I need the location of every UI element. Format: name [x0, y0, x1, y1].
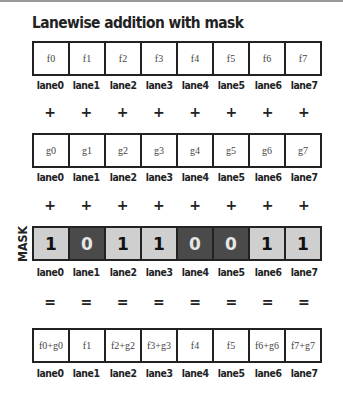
mask-cell-1: 0: [70, 228, 106, 259]
result-cell-4: f4: [178, 330, 214, 361]
mask-cell-4: 0: [178, 228, 214, 259]
lane-label: lane4: [180, 79, 211, 92]
equals-sign: =: [250, 294, 286, 310]
lane-labels-result: lane0 lane1 lane2 lane3 lane4 lane5 lane…: [32, 367, 322, 380]
result-cell-0: f0+g0: [34, 330, 70, 361]
cell-g4: g4: [178, 135, 214, 166]
cell-g5: g5: [214, 135, 250, 166]
lane-labels-mask: lane0 lane1 lane2 lane3 lane4 lane5 lane…: [32, 266, 322, 279]
result-cell-7: f7+g7: [286, 330, 320, 361]
mask-label-text: MASK: [15, 226, 30, 262]
plus-sign: +: [286, 104, 322, 120]
diagram-title: Lanewise addition with mask: [32, 14, 243, 32]
cell-g7: g7: [286, 135, 320, 166]
plus-operators-1: + + + + + + + +: [32, 104, 322, 120]
equals-sign: =: [213, 294, 249, 310]
cell-f3: f3: [142, 43, 178, 74]
plus-sign: +: [32, 197, 68, 213]
result-cell-2: f2+g2: [106, 330, 142, 361]
lane-label: lane7: [288, 367, 319, 380]
cell-g0: g0: [34, 135, 70, 166]
lane-label: lane2: [107, 266, 138, 279]
plus-sign: +: [213, 104, 249, 120]
lane-label: lane4: [180, 367, 211, 380]
lane-label: lane3: [143, 79, 174, 92]
lane-label: lane2: [107, 367, 138, 380]
lane-label: lane3: [143, 171, 174, 184]
lane-label: lane5: [216, 171, 247, 184]
lane-label: lane2: [107, 171, 138, 184]
cell-f0: f0: [34, 43, 70, 74]
cell-f2: f2: [106, 43, 142, 74]
vector-f: f0 f1 f2 f3 f4 f5 f6 f7: [32, 41, 322, 76]
mask-cell-3: 1: [142, 228, 178, 259]
lane-label: lane0: [35, 171, 66, 184]
plus-sign: +: [68, 197, 104, 213]
lane-label: lane0: [35, 79, 66, 92]
lane-label: lane6: [252, 266, 283, 279]
equals-sign: =: [177, 294, 213, 310]
equals-sign: =: [286, 294, 322, 310]
result-cell-5: f5: [214, 330, 250, 361]
lane-label: lane6: [252, 79, 283, 92]
result-cell-3: f3+g3: [142, 330, 178, 361]
plus-sign: +: [250, 104, 286, 120]
cell-f7: f7: [286, 43, 320, 74]
lane-label: lane0: [35, 367, 66, 380]
cell-g3: g3: [142, 135, 178, 166]
plus-sign: +: [213, 197, 249, 213]
lane-label: lane1: [71, 266, 102, 279]
mask-label: MASK: [12, 233, 32, 255]
cell-g6: g6: [250, 135, 286, 166]
cell-g1: g1: [70, 135, 106, 166]
cell-f5: f5: [214, 43, 250, 74]
plus-operators-2: + + + + + + + +: [32, 197, 322, 213]
mask-vector: 1 0 1 1 0 0 1 1: [32, 226, 322, 261]
plus-sign: +: [32, 104, 68, 120]
mask-cell-7: 1: [286, 228, 320, 259]
plus-sign: +: [141, 197, 177, 213]
cell-f1: f1: [70, 43, 106, 74]
cell-f6: f6: [250, 43, 286, 74]
equals-sign: =: [68, 294, 104, 310]
lane-label: lane7: [288, 171, 319, 184]
plus-sign: +: [177, 104, 213, 120]
lane-labels-g: lane0 lane1 lane2 lane3 lane4 lane5 lane…: [32, 171, 322, 184]
cell-g2: g2: [106, 135, 142, 166]
equals-sign: =: [32, 294, 68, 310]
lane-label: lane1: [71, 79, 102, 92]
lane-labels-f: lane0 lane1 lane2 lane3 lane4 lane5 lane…: [32, 79, 322, 92]
plus-sign: +: [286, 197, 322, 213]
lane-label: lane5: [216, 367, 247, 380]
equals-operators: = = = = = = = =: [32, 294, 322, 310]
mask-cell-6: 1: [250, 228, 286, 259]
lane-label: lane4: [180, 266, 211, 279]
mask-cell-2: 1: [106, 228, 142, 259]
vector-g: g0 g1 g2 g3 g4 g5 g6 g7: [32, 133, 322, 168]
lane-label: lane7: [288, 266, 319, 279]
lane-label: lane1: [71, 367, 102, 380]
mask-cell-0: 1: [34, 228, 70, 259]
top-divider: [0, 0, 343, 2]
plus-sign: +: [177, 197, 213, 213]
lane-label: lane3: [143, 367, 174, 380]
lane-label: lane3: [143, 266, 174, 279]
plus-sign: +: [141, 104, 177, 120]
result-cell-6: f6+g6: [250, 330, 286, 361]
result-vector: f0+g0 f1 f2+g2 f3+g3 f4 f5 f6+g6 f7+g7: [32, 328, 322, 363]
plus-sign: +: [250, 197, 286, 213]
plus-sign: +: [105, 197, 141, 213]
equals-sign: =: [141, 294, 177, 310]
lane-label: lane1: [71, 171, 102, 184]
lane-label: lane7: [288, 79, 319, 92]
lane-label: lane0: [35, 266, 66, 279]
result-cell-1: f1: [70, 330, 106, 361]
lane-label: lane6: [252, 367, 283, 380]
mask-cell-5: 0: [214, 228, 250, 259]
lane-label: lane4: [180, 171, 211, 184]
lane-label: lane2: [107, 79, 138, 92]
lane-label: lane5: [216, 79, 247, 92]
cell-f4: f4: [178, 43, 214, 74]
plus-sign: +: [105, 104, 141, 120]
lane-label: lane5: [216, 266, 247, 279]
